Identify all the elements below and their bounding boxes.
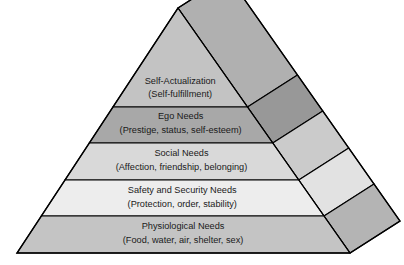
tier-1-subtitle: (Self-fulfillment) (148, 89, 212, 99)
tier-2-title: Ego Needs (158, 111, 204, 121)
tier-4-subtitle: (Protection, order, stability) (128, 199, 237, 209)
tier-1-title: Self-Actualization (145, 76, 216, 86)
tier-5-subtitle: (Food, water, air, shelter, sex) (123, 235, 244, 245)
pyramid-diagram: Self-Actualization(Self-fulfillment)Ego … (0, 0, 404, 265)
tier-4-title: Safety and Security Needs (128, 185, 237, 195)
tier-5-title: Physiological Needs (142, 221, 225, 231)
tier-3-subtitle: (Affection, friendship, belonging) (116, 162, 248, 172)
tier-3-title: Social Needs (154, 148, 209, 158)
hierarchy-of-needs-figure: Self-Actualization(Self-fulfillment)Ego … (0, 0, 404, 265)
tier-2-subtitle: (Prestige, status, self-esteem) (120, 125, 242, 135)
